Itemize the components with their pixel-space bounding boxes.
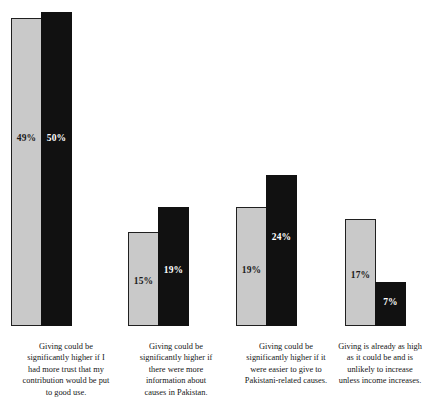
category-label-3-line-3: were easier to give to: [230, 364, 342, 375]
bar-series-b-3[interactable]: 24%: [266, 175, 297, 326]
plot-area: 49% 50% 15% 19% 19% 24%: [0, 0, 432, 326]
category-label-2-line-3: there were more: [120, 364, 232, 375]
category-label-2-line-5: causes in Pakistan.: [120, 387, 232, 398]
category-label-2: Giving could be significantly higher if …: [120, 341, 232, 398]
category-label-4-line-1: Giving is already as high: [330, 341, 430, 352]
bar-value-a-3: 19%: [237, 265, 266, 275]
category-label-4-line-3: unlikely to increase: [330, 364, 430, 375]
bar-series-a-3[interactable]: 19%: [236, 207, 267, 326]
bar-value-b-1: 50%: [42, 133, 71, 143]
category-label-1-line-5: to good use.: [2, 387, 130, 398]
category-label-1-line-4: contribution would be put: [2, 375, 130, 386]
category-label-4-line-2: as it could be and is: [330, 352, 430, 363]
category-label-3-line-1: Giving could be: [230, 341, 342, 352]
bar-series-a-4[interactable]: 17%: [345, 219, 376, 326]
category-label-1-line-1: Giving could be: [2, 341, 130, 352]
bar-value-a-4: 17%: [346, 270, 375, 280]
bar-series-b-4[interactable]: 7%: [375, 282, 406, 326]
category-label-1: Giving could be significantly higher if …: [2, 341, 130, 398]
bar-value-a-1: 49%: [12, 133, 41, 143]
bar-series-a-2[interactable]: 15%: [128, 232, 159, 326]
bar-chart: 49% 50% 15% 19% 19% 24%: [0, 0, 432, 405]
bar-value-a-2: 15%: [129, 276, 158, 286]
category-label-2-line-1: Giving could be: [120, 341, 232, 352]
category-label-3-line-4: Pakistani-related causes.: [230, 375, 342, 386]
bar-value-b-4: 7%: [376, 297, 405, 307]
bar-value-b-2: 19%: [159, 265, 188, 275]
category-label-4: Giving is already as high as it could be…: [330, 341, 430, 387]
bar-series-a-1[interactable]: 49%: [11, 18, 42, 326]
category-label-1-line-3: had more trust that my: [2, 364, 130, 375]
category-label-2-line-2: significantly higher if: [120, 352, 232, 363]
bar-series-b-1[interactable]: 50%: [41, 12, 72, 326]
category-label-2-line-4: information about: [120, 375, 232, 386]
category-label-1-line-2: significantly higher if I: [2, 352, 130, 363]
bar-value-b-3: 24%: [267, 232, 296, 242]
bar-series-b-2[interactable]: 19%: [158, 207, 189, 326]
category-label-4-line-4: unless income increases.: [330, 375, 430, 386]
category-label-3-line-2: significantly higher if it: [230, 352, 342, 363]
category-label-3: Giving could be significantly higher if …: [230, 341, 342, 387]
category-labels: Giving could be significantly higher if …: [0, 341, 432, 405]
